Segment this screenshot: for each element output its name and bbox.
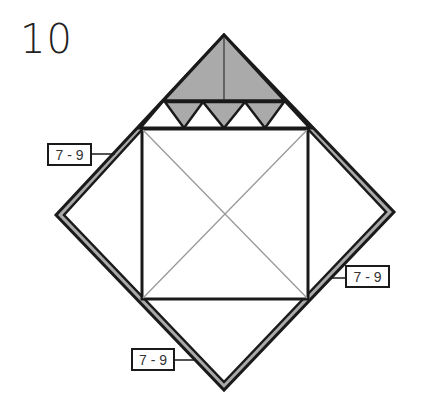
label-right: 7 - 9 xyxy=(346,266,389,287)
svg-text:7 - 9: 7 - 9 xyxy=(139,352,167,368)
svg-text:7 - 9: 7 - 9 xyxy=(353,269,381,285)
svg-text:7 - 9: 7 - 9 xyxy=(55,147,83,163)
origami-diagram: 7 - 9 7 - 9 7 - 9 xyxy=(0,0,423,400)
label-bottom: 7 - 9 xyxy=(132,349,174,370)
label-left: 7 - 9 xyxy=(48,144,91,165)
